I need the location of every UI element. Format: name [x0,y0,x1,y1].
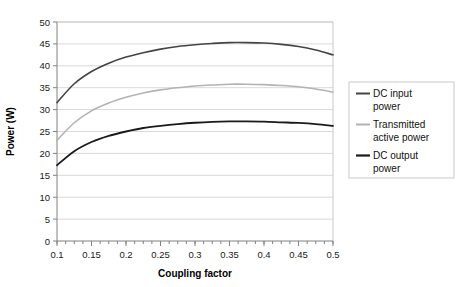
chart-container: 051015202530354045500.10.150.20.250.30.3… [0,0,460,287]
y-tick-label-35: 35 [39,82,50,93]
y-tick-label-45: 45 [39,38,50,49]
y-tick-label-10: 10 [39,192,50,203]
y-tick-label-15: 15 [39,170,50,181]
y-tick-label-5: 5 [45,214,50,225]
y-tick-label-50: 50 [39,17,50,28]
x-tick-label-0.4: 0.4 [257,249,270,260]
legend-label-0-line2: power [373,101,401,112]
x-tick-label-0.35: 0.35 [220,249,239,260]
x-tick-label-0.5: 0.5 [326,249,339,260]
power-vs-coupling-factor-chart: 051015202530354045500.10.150.20.250.30.3… [0,0,460,287]
x-tick-label-0.2: 0.2 [119,249,132,260]
y-tick-label-30: 30 [39,104,50,115]
x-tick-label-0.1: 0.1 [50,249,63,260]
legend-label-0-line1: DC input [373,88,412,99]
legend-label-2-line1: DC output [373,150,418,161]
legend-label-1-line2: active power [373,132,430,143]
x-axis-title: Coupling factor [158,268,232,279]
legend-label-2-line2: power [373,163,401,174]
y-tick-label-0: 0 [45,236,50,247]
y-tick-label-20: 20 [39,148,50,159]
y-tick-label-40: 40 [39,60,50,71]
x-tick-label-0.45: 0.45 [289,249,308,260]
x-tick-label-0.15: 0.15 [82,249,101,260]
legend-label-1-line1: Transmitted [373,119,425,130]
y-axis-title: Power (W) [5,107,16,156]
x-tick-label-0.3: 0.3 [188,249,201,260]
y-tick-label-25: 25 [39,126,50,137]
x-tick-label-0.25: 0.25 [151,249,170,260]
